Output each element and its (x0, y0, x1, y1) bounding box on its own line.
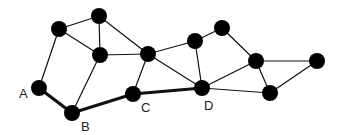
background (0, 0, 344, 135)
node-n2 (91, 8, 107, 24)
node-label-C: C (141, 100, 150, 115)
node-n4 (140, 46, 156, 62)
node-n1 (51, 21, 67, 37)
node-D (194, 80, 210, 96)
graph-diagram: ABCD (0, 0, 344, 135)
node-n6 (214, 20, 230, 36)
node-n8 (309, 53, 325, 69)
node-A (31, 80, 47, 96)
node-n3 (92, 47, 108, 63)
node-n9 (262, 85, 278, 101)
node-B (64, 105, 80, 121)
node-n7 (248, 53, 264, 69)
node-label-A: A (19, 86, 28, 101)
node-C (125, 86, 141, 102)
node-n5 (187, 33, 203, 49)
node-label-D: D (204, 98, 213, 113)
node-label-B: B (81, 119, 90, 134)
